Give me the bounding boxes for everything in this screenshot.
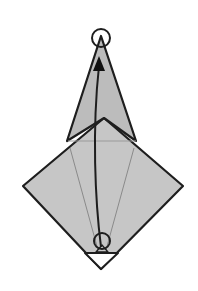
bottom-triangle-flap [85, 253, 118, 269]
origami-diagram [0, 0, 198, 291]
